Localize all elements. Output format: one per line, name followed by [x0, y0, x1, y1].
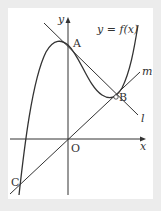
curve-f — [19, 25, 138, 195]
label-curve: y = f(x) — [96, 23, 138, 36]
label-b: B — [119, 91, 127, 104]
label-x-axis: x — [140, 140, 147, 153]
label-origin: O — [71, 142, 80, 155]
label-y-axis: y — [57, 13, 65, 26]
label-a: A — [72, 37, 82, 50]
point-b-marker — [114, 95, 118, 99]
label-c: C — [11, 176, 19, 189]
label-line-m: m — [142, 65, 152, 78]
label-line-l: l — [141, 112, 145, 125]
function-graph: A B C O x y y = f(x) m l — [0, 0, 161, 211]
y-axis-arrow-icon — [66, 17, 71, 23]
